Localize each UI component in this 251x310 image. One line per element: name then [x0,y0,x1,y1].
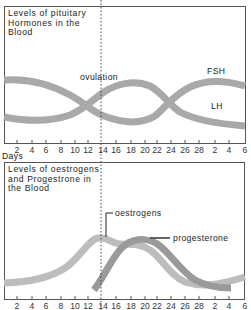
top-axis-ticks [17,140,229,143]
fsh-label: FSH [207,66,225,76]
lh-label: LH [211,101,223,111]
days-axis-label: Days [2,151,23,161]
ovulation-label: ovulation [80,72,118,82]
bottom-axis-ticks [4,296,245,300]
hormone-cycle-diagram [0,0,251,310]
oestrogens-label: oestrogens [115,208,162,218]
progesterone-label: progesterone [173,233,228,243]
oestrogens-leader [106,213,113,237]
